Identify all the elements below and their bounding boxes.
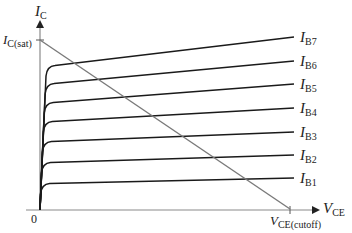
ib-label-b3: IB3	[300, 125, 317, 140]
ib-curve-b1	[40, 178, 294, 210]
ib-curve-b6	[40, 61, 294, 210]
ib-curves	[40, 37, 294, 210]
ib-curve-b7	[40, 37, 294, 210]
x-axis-label: VCE	[323, 201, 345, 216]
origin-label: 0	[31, 213, 37, 225]
ib-label-b6: IB6	[300, 54, 317, 69]
ib-label-b1: IB1	[300, 171, 317, 186]
ib-label-b2: IB2	[300, 148, 317, 163]
ib-curve-b3	[40, 132, 294, 210]
y-axis-label: IC	[35, 4, 47, 19]
vce-cutoff-label: VCE(cutoff)	[270, 214, 321, 227]
ib-label-b5: IB5	[300, 77, 317, 92]
ib-label-b7: IB7	[300, 30, 317, 45]
ib-label-b4: IB4	[300, 101, 317, 116]
ib-curve-b5	[40, 84, 294, 210]
ic-sat-label: IC(sat)	[3, 33, 32, 46]
